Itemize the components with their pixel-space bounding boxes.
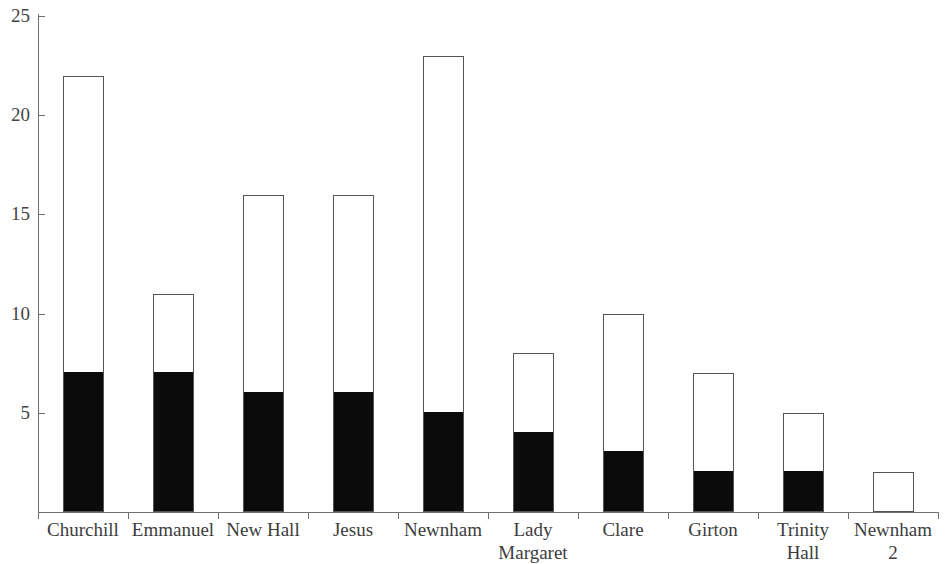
y-tick-label: 20 bbox=[0, 105, 30, 124]
bar bbox=[783, 413, 824, 512]
x-tick-mark bbox=[938, 512, 939, 519]
bar bbox=[513, 353, 554, 512]
bar-segment-lower bbox=[64, 372, 103, 511]
bar-segment-lower bbox=[244, 392, 283, 511]
bar-segment-lower bbox=[514, 432, 553, 511]
bar bbox=[333, 195, 374, 512]
category-label: Lady Margaret bbox=[488, 518, 578, 564]
category-label: Newnham 2 bbox=[848, 518, 938, 564]
bar-chart: 510152025 ChurchillEmmanuelNew HallJesus… bbox=[0, 0, 946, 564]
y-axis-line bbox=[38, 14, 39, 514]
bar bbox=[693, 373, 734, 512]
bar-segment-lower bbox=[784, 471, 823, 511]
bar-segment-lower bbox=[604, 451, 643, 511]
bar bbox=[423, 56, 464, 512]
category-label: Clare bbox=[578, 518, 668, 541]
bar-segment-lower bbox=[424, 412, 463, 511]
bar bbox=[603, 314, 644, 512]
bar bbox=[873, 472, 914, 512]
y-tick-mark bbox=[38, 214, 45, 215]
bar-segment-lower bbox=[154, 372, 193, 511]
y-tick-mark bbox=[38, 16, 45, 17]
y-tick-mark bbox=[38, 413, 45, 414]
bar bbox=[243, 195, 284, 512]
category-label: Jesus bbox=[308, 518, 398, 541]
category-label: New Hall bbox=[218, 518, 308, 541]
category-label: Newnham bbox=[398, 518, 488, 541]
bar bbox=[153, 294, 194, 512]
y-tick-label: 5 bbox=[0, 403, 30, 422]
bar bbox=[63, 76, 104, 512]
category-label: Churchill bbox=[38, 518, 128, 541]
y-tick-mark bbox=[38, 314, 45, 315]
y-tick-label: 15 bbox=[0, 204, 30, 223]
y-tick-mark bbox=[38, 115, 45, 116]
category-label: Trinity Hall bbox=[758, 518, 848, 564]
y-tick-label: 10 bbox=[0, 304, 30, 323]
bar-segment-lower bbox=[334, 392, 373, 511]
y-tick-label: 25 bbox=[0, 6, 30, 25]
category-label: Girton bbox=[668, 518, 758, 541]
bar-segment-lower bbox=[694, 471, 733, 511]
category-label: Emmanuel bbox=[128, 518, 218, 541]
